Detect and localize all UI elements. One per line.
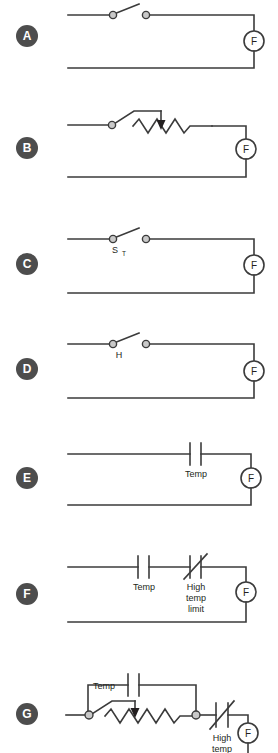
panel-g: G Temp High temp bbox=[0, 665, 278, 753]
panel-c: C S T F bbox=[0, 205, 278, 305]
circuit-a: F bbox=[0, 0, 278, 95]
limit-label-line2-g: temp bbox=[212, 744, 232, 753]
circuit-f: Temp High temp limit F bbox=[0, 535, 278, 665]
rail-top-right-f bbox=[201, 567, 246, 582]
circuit-b: F bbox=[0, 95, 278, 205]
switch-label-c: S bbox=[112, 245, 118, 255]
circuit-g: Temp High temp F bbox=[0, 665, 278, 753]
rail-bottom-c bbox=[68, 275, 254, 293]
panel-e: E Temp F bbox=[0, 415, 278, 535]
switch-label-d: H bbox=[116, 350, 123, 360]
panel-a: A F bbox=[0, 0, 278, 95]
load-label-d: F bbox=[251, 366, 257, 377]
limit-label-line3-f: limit bbox=[188, 604, 204, 614]
switch-terminal-b bbox=[108, 121, 115, 128]
rail-top-right-b bbox=[212, 126, 246, 139]
rheostat-g bbox=[105, 709, 196, 723]
limit-label-line1-f: High bbox=[187, 582, 206, 592]
switch-blade-a bbox=[114, 4, 139, 14]
wiper-arrow-b bbox=[157, 120, 166, 130]
switch-terminal-left-d bbox=[109, 340, 116, 347]
wiper-arm-b bbox=[114, 111, 161, 124]
circuit-c: S T F bbox=[0, 205, 278, 305]
node-left-g bbox=[85, 711, 93, 719]
panel-f: F Temp High temp limit F bbox=[0, 535, 278, 665]
load-label-a: F bbox=[251, 36, 257, 47]
rail-top-right-d bbox=[149, 344, 254, 361]
rail-top-right-c bbox=[149, 239, 254, 255]
switch-blade-c bbox=[114, 228, 139, 238]
load-label-g: F bbox=[245, 728, 251, 739]
contact-label-e: Temp bbox=[185, 469, 207, 479]
switch-terminal-left-c bbox=[109, 235, 116, 242]
switch-terminal-right-d bbox=[142, 340, 149, 347]
rail-right-g bbox=[228, 715, 248, 723]
panel-b: B F bbox=[0, 95, 278, 205]
rail-bottom-b bbox=[68, 159, 246, 177]
contact-label-g: Temp bbox=[93, 681, 115, 691]
load-label-c: F bbox=[251, 260, 257, 271]
contact-label-f: Temp bbox=[133, 582, 155, 592]
switch-terminal-right-a bbox=[142, 11, 149, 18]
rheostat-b bbox=[133, 119, 212, 133]
circuit-e: Temp F bbox=[0, 415, 278, 535]
rail-top-right-e bbox=[201, 454, 251, 468]
circuit-d: H F bbox=[0, 305, 278, 415]
load-label-f: F bbox=[243, 587, 249, 598]
switch-terminal-left-a bbox=[109, 11, 116, 18]
limit-label-line1-g: High bbox=[213, 733, 232, 743]
load-label-e: F bbox=[248, 473, 254, 484]
rail-bottom-e bbox=[68, 488, 251, 505]
limit-label-line2-f: temp bbox=[186, 593, 206, 603]
switch-blade-d bbox=[114, 333, 139, 343]
panel-d: D H F bbox=[0, 305, 278, 415]
node-right-g bbox=[192, 711, 200, 719]
switch-label-sub-c: T bbox=[122, 250, 126, 257]
rail-bottom-d bbox=[68, 381, 254, 398]
load-label-b: F bbox=[243, 144, 249, 155]
rail-bottom-f bbox=[68, 602, 246, 622]
rail-bottom-a bbox=[68, 51, 254, 68]
rail-top-right bbox=[149, 15, 254, 31]
switch-terminal-right-c bbox=[142, 235, 149, 242]
